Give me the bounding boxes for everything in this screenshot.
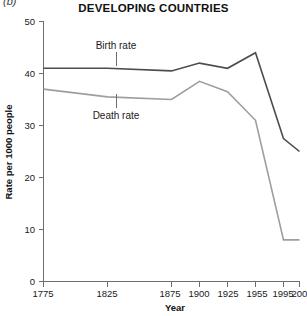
line-chart-plot: 0 10 20 30 40 50 Rate per 1000 people 17… [0, 0, 307, 316]
y-tick-label-30: 30 [24, 120, 35, 131]
y-tick-label-20: 20 [24, 172, 35, 183]
birth-rate-line [44, 53, 300, 152]
y-tick-label-10: 10 [24, 224, 35, 235]
y-tick-label-50: 50 [24, 16, 35, 27]
x-tick-label-1775: 1775 [32, 288, 53, 299]
death-rate-label: Death rate [93, 110, 140, 121]
x-axis-title: Year [165, 302, 185, 313]
y-axis-title: Rate per 1000 people [3, 104, 14, 199]
death-rate-line [44, 81, 300, 240]
x-tick-label-1995: 1995 [272, 288, 293, 299]
x-tick-label-1925: 1925 [217, 288, 238, 299]
chart-figure: (b) DEVELOPING COUNTRIES 0 10 20 30 40 5… [0, 0, 307, 316]
x-tick-label-2003: 2003 [291, 288, 307, 299]
y-axis-ticks [39, 22, 44, 282]
y-tick-label-0: 0 [30, 276, 35, 287]
y-tick-label-40: 40 [24, 68, 35, 79]
birth-rate-label: Birth rate [96, 40, 137, 51]
x-tick-label-1900: 1900 [188, 288, 209, 299]
x-tick-label-1955: 1955 [246, 288, 267, 299]
x-tick-label-1875: 1875 [159, 288, 180, 299]
x-tick-label-1825: 1825 [96, 288, 117, 299]
x-axis-ticks [44, 282, 300, 287]
